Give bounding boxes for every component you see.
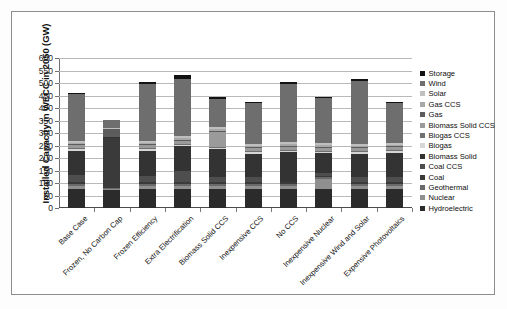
plot-inner: 050100150200250300350400450500550600Base… [59,58,412,208]
bar-segment [68,186,85,189]
y-axis-tick-label: 450 [39,91,53,101]
legend-swatch [420,164,425,169]
legend-swatch [420,71,425,76]
legend-label: Hydroelectric [429,204,473,213]
bar-segment [209,189,226,208]
x-axis-tick [130,208,131,212]
bar-segment [209,131,226,132]
y-axis-tick [55,108,59,109]
x-axis-tick [306,208,307,212]
bar-segment [139,184,156,187]
bar-segment [315,152,332,154]
bar-segment [245,152,262,154]
x-axis-category-label: Frozen, No Carbon Cap [61,214,124,277]
bar-segment [280,184,297,187]
bar-segment [68,182,85,183]
bar-segment [351,81,368,143]
bar-segment [103,189,120,208]
bar-segment [280,146,297,147]
y-axis-tick-label: 250 [39,141,53,151]
bar-segment [386,146,403,147]
y-axis-tick [55,183,59,184]
bar-segment [386,189,403,208]
bar-segment [103,188,120,189]
bar-segment [139,84,156,141]
bar-segment [351,147,368,148]
bar-segment [68,94,85,140]
legend-label: Gas [429,110,443,119]
bar-segment [174,75,191,79]
bar-segment [315,151,332,152]
bar-segment [351,152,368,154]
legend-item: Biogas CCS [420,130,507,140]
bar-segment [245,182,262,183]
legend-item: Solar [420,89,507,99]
bar-segment [351,79,368,81]
bar-segment [351,144,368,146]
bar-segment [280,150,297,151]
bar-segment [209,184,226,187]
bar-segment [280,142,297,144]
bar-segment [351,184,368,187]
bar-segment [315,148,332,151]
bar-segment [351,146,368,148]
x-axis-category-label: Expensive Photovoltaics [342,214,407,279]
y-axis-tick [55,121,59,122]
bar-segment [280,189,297,208]
bar-segment [315,143,332,145]
bar-segment [351,148,368,151]
bar-segment [386,186,403,189]
legend-label: Biogas CCS [429,131,470,140]
bar-segment [174,140,191,141]
bar-segment [386,102,403,103]
bar-segment [351,189,368,208]
bar-segment [103,129,120,137]
y-axis-tick-label: 550 [39,66,53,76]
bar-segment [315,173,332,176]
bar-segment [245,184,262,187]
legend-item: Hydroelectric [420,203,507,213]
y-axis-tick-label: 100 [39,178,53,188]
bar-segment [139,144,156,145]
bar-segment [386,143,403,145]
legend-label: Biomass Solid [429,152,477,161]
y-axis-tick [55,58,59,59]
y-axis-tick-label: 200 [39,153,53,163]
bar-segment [351,182,368,183]
x-axis-tick [341,208,342,212]
bar-segment [209,149,226,177]
legend-label: Coal [429,173,445,182]
legend-item: Gas CCS [420,99,507,109]
legend-swatch [420,133,425,138]
y-axis-tick [55,208,59,209]
bar-segment [139,149,156,151]
legend-swatch [420,175,425,180]
bar-segment [351,186,368,189]
bar-segment [103,128,120,129]
chart-legend: StorageWindSolarGas CCSGasBiomass Solid … [420,68,507,213]
bar-segment [280,182,297,183]
bar-segment [174,136,191,138]
y-axis-tick [55,196,59,197]
bar-segment [280,144,297,146]
bar-segment [68,93,85,95]
bar-segment [68,141,85,143]
y-axis-tick-label: 400 [39,103,53,113]
bar-segment [174,146,191,171]
legend-swatch [420,195,425,200]
bar-segment [139,151,156,177]
y-axis-tick-label: 600 [39,53,53,63]
legend-item: Biogas [420,141,507,151]
bar-segment [386,184,403,187]
bar-segment [103,120,120,129]
gridline [59,58,412,59]
bar-segment [280,82,297,84]
plot-area: 050100150200250300350400450500550600Base… [59,58,412,208]
legend-item: Geothermal [420,182,507,192]
bar-segment [139,82,156,84]
bar-segment [174,171,191,182]
y-axis-tick [55,158,59,159]
bar-segment [386,153,403,177]
bar-segment [68,148,85,149]
legend-swatch [420,143,425,148]
